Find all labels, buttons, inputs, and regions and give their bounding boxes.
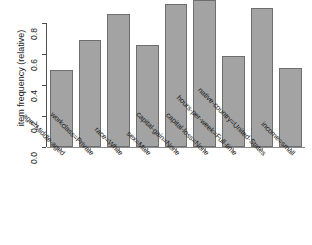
y-axis-tick-label: 0.4	[29, 85, 39, 107]
y-axis-tick-label: 0.8	[29, 23, 39, 45]
y-axis-tick-mark	[42, 54, 46, 55]
bar	[107, 14, 130, 147]
x-axis-tick-mark	[176, 148, 177, 151]
x-axis-tick-mark	[205, 148, 206, 151]
x-axis-tick-mark	[119, 148, 120, 151]
x-axis-tick-mark	[90, 148, 91, 151]
y-axis-tick-mark	[42, 23, 46, 24]
y-axis-tick-mark	[42, 116, 46, 117]
x-axis-tick-mark	[262, 148, 263, 151]
x-axis-tick-mark	[147, 148, 148, 151]
y-axis-tick-label: 0.6	[29, 54, 39, 76]
y-axis-tick-mark	[42, 85, 46, 86]
x-axis-tick-mark	[61, 148, 62, 151]
x-axis-labels: age=Middle-agedworkclass=Privaterace=Whi…	[0, 148, 312, 245]
bar	[279, 68, 302, 147]
x-axis-tick-mark	[291, 148, 292, 151]
x-axis-tick-mark	[233, 148, 234, 151]
item-frequency-plot: item frequency (relative) 0.00.20.40.60.…	[0, 0, 312, 245]
